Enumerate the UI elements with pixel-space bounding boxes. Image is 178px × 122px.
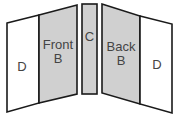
label-front: Front xyxy=(43,37,74,52)
book-cover-diagram: D Front B C Back B D xyxy=(0,0,178,122)
label-back-b: B xyxy=(117,53,126,68)
label-front-b: B xyxy=(54,51,63,66)
label-c: C xyxy=(85,29,94,44)
panel-c-spine xyxy=(82,4,97,94)
label-right-d: D xyxy=(152,57,161,72)
label-left-d: D xyxy=(17,59,26,74)
label-back: Back xyxy=(107,39,136,54)
